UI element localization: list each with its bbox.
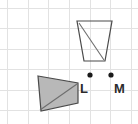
point-m-label: M [114,81,125,96]
point-l-dot [87,72,92,77]
shaded-quadrilateral [38,76,78,111]
point-l-label: L [80,81,88,96]
top-trapezoid-group [77,21,112,61]
bottom-quadrilateral-group [38,76,78,111]
figure-svg: L M [0,0,138,124]
point-m-dot [108,72,113,77]
geometry-figure-canvas: L M [0,0,138,124]
